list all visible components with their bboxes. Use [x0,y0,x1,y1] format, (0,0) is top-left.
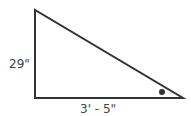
triangle-diagram: 29" 3' - 5" [0,0,191,116]
right-triangle [35,10,183,98]
angle-marker-dot [159,89,165,95]
left-side-label: 29" [9,57,30,71]
bottom-side-label: 3' - 5" [80,102,116,116]
